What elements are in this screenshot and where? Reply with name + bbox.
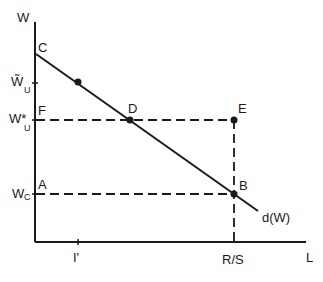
y-axis-label: W: [17, 10, 30, 25]
label-r-over-s: R/S: [222, 252, 244, 267]
label-f: F: [38, 103, 46, 118]
label-b: B: [239, 178, 248, 193]
label-w-tilde-u-sub: U: [24, 85, 31, 95]
x-axis-label: L: [306, 250, 313, 265]
demand-curve: [36, 54, 258, 211]
label-w-tilde-u: W̃: [11, 74, 24, 89]
label-i-prime: I': [73, 250, 79, 265]
point-d: [127, 117, 134, 124]
label-w-c-sub: C: [24, 192, 31, 202]
label-e: E: [238, 101, 247, 116]
demand-curve-label: d(W): [262, 210, 290, 225]
point-b: [231, 191, 238, 198]
label-d: D: [128, 101, 137, 116]
point-e: [231, 117, 238, 124]
labor-demand-diagram: W L W̃ U W* U W C I' R/S d(W) C D E F A …: [0, 0, 323, 282]
point-w-tilde-dot: [75, 79, 82, 86]
label-a: A: [38, 177, 47, 192]
label-c: C: [38, 40, 47, 55]
label-w-star-u-sub: U: [24, 123, 31, 133]
